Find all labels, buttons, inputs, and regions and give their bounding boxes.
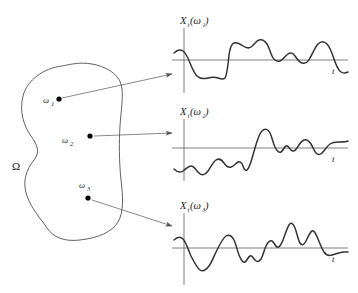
stochastic-process-figure: Ω ω 1 ω 2 ω 3 <box>0 0 358 293</box>
omega-3-label: ω <box>79 180 85 190</box>
sample-space-group: Ω ω 1 ω 2 ω 3 <box>12 63 123 240</box>
plot-3-title-arg-open: (ω <box>190 200 201 212</box>
sample-path-plot-3: X t (ω 3 ) t <box>172 200 348 285</box>
sample-point-omega-2: ω 2 <box>62 133 93 146</box>
plot-2-title-main: X <box>179 106 187 117</box>
sample-point-omega-3: ω 3 <box>79 180 91 201</box>
plot-1-title-main: X <box>179 15 187 26</box>
omega-3-subscript: 3 <box>86 185 91 192</box>
plot-3-title-arg-close: ) <box>204 200 209 212</box>
mapping-arrow-1 <box>62 74 172 98</box>
omega-1-subscript: 1 <box>51 100 54 107</box>
omega-1-dot <box>56 96 61 101</box>
figure-canvas: Ω ω 1 ω 2 ω 3 <box>0 0 358 293</box>
plot-1-title-arg-open: (ω <box>190 15 201 27</box>
plot-1-title-arg-close: ) <box>204 15 209 27</box>
sample-space-label: Ω <box>12 160 20 172</box>
plot-3-waveform <box>174 223 348 270</box>
plot-2-waveform <box>174 129 348 174</box>
plot-3-title-main: X <box>179 200 187 211</box>
plot-2-title-arg-close: ) <box>204 106 209 118</box>
sample-point-omega-1: ω 1 <box>43 95 62 107</box>
omega-2-subscript: 2 <box>70 140 74 147</box>
plot-1-axis-label-t: t <box>332 66 335 76</box>
sample-path-plot-1: X t (ω 1 ) t <box>172 15 348 93</box>
plot-2-axis-label-t: t <box>332 154 335 164</box>
omega-3-dot <box>85 195 90 200</box>
omega-1-label: ω <box>43 95 49 105</box>
sample-path-plot-2: X t (ω 2 ) t <box>172 106 348 181</box>
plot-1-waveform <box>174 40 348 79</box>
omega-2-label: ω <box>62 135 68 145</box>
mapping-arrow-2 <box>94 133 172 136</box>
plot-2-title-arg-open: (ω <box>190 106 201 118</box>
omega-2-dot <box>87 133 92 138</box>
mapping-arrow-3 <box>92 200 172 226</box>
mapping-arrows-group <box>62 74 172 226</box>
sample-space-blob-outline <box>22 63 123 240</box>
